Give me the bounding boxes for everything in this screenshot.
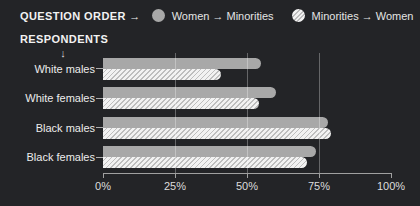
bar-hatched: [103, 128, 331, 139]
y-axis-header: RESPONDENTS ↓: [20, 33, 116, 59]
category-label: Black females: [0, 150, 95, 164]
x-axis-tick: [103, 173, 104, 178]
bar-solid: [103, 146, 316, 157]
y-axis-tick: [96, 98, 103, 99]
solid-circle-swatch-icon: [152, 9, 165, 22]
legend-item-label: Women → Minorities: [172, 10, 274, 22]
gridline: [247, 53, 248, 173]
bar-solid: [103, 58, 261, 69]
y-axis-tick: [96, 68, 103, 69]
bar-solid: [103, 117, 328, 128]
y-axis-tick: [96, 127, 103, 128]
x-axis-tick-label: 75%: [297, 180, 341, 192]
down-arrow-icon: ↓: [20, 47, 106, 59]
x-axis-tick-label: 50%: [225, 180, 269, 192]
bar-solid: [103, 87, 276, 98]
x-axis-tick: [247, 173, 248, 178]
category-label: White females: [0, 91, 95, 105]
x-axis-tick: [319, 173, 320, 178]
bar-hatched: [103, 69, 221, 80]
bar-hatched: [103, 157, 307, 168]
legend-item-minorities-first: Minorities → Women: [292, 9, 414, 22]
x-axis-tick-label: 25%: [153, 180, 197, 192]
gridline: [175, 53, 176, 173]
legend-item-label: Minorities → Women: [312, 10, 414, 22]
gridline: [319, 53, 320, 173]
x-axis-tick: [175, 173, 176, 178]
chart-stage: QUESTION ORDER → Women → Minorities Mino…: [0, 0, 420, 206]
category-label: White males: [0, 62, 95, 76]
x-axis-tick: [391, 173, 392, 178]
y-axis-title: RESPONDENTS: [20, 33, 116, 45]
legend: QUESTION ORDER → Women → Minorities Mino…: [20, 9, 412, 22]
y-axis-tick: [96, 157, 103, 158]
x-axis-tick-label: 0%: [81, 180, 125, 192]
bar-hatched: [103, 98, 259, 109]
legend-title: QUESTION ORDER →: [20, 10, 141, 22]
category-label: Black males: [0, 121, 95, 135]
legend-item-women-first: Women → Minorities: [152, 9, 274, 22]
hatched-circle-swatch-icon: [292, 9, 305, 22]
x-axis-tick-label: 100%: [369, 180, 413, 192]
